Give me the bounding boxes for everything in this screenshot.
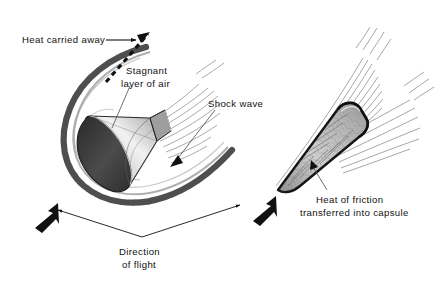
direction-of-flight-group: Direction of flight <box>35 196 277 270</box>
label-heat-friction-line2: transferred into capsule <box>300 207 409 218</box>
label-stagnant-layer-line1: Stagnant <box>126 65 167 76</box>
label-direction-line1: Direction <box>119 246 160 257</box>
diagram-canvas: Heat carried away Stagnant layer of air … <box>0 0 440 282</box>
label-stagnant-layer-line2: layer of air <box>121 78 170 89</box>
label-heat-friction-line1: Heat of friction <box>316 194 383 205</box>
flight-arrow-left <box>35 203 59 233</box>
reentry-diagram-svg: Heat carried away Stagnant layer of air … <box>0 0 440 282</box>
right-panel-group: Heat of friction transferred into capsul… <box>276 27 434 218</box>
flight-arrow-right <box>253 196 277 226</box>
label-heat-carried-away: Heat carried away <box>22 34 105 45</box>
left-panel-group: Heat carried away Stagnant layer of air … <box>22 32 263 203</box>
label-shock-wave: Shock wave <box>208 98 263 109</box>
label-direction-line2: of flight <box>122 259 156 270</box>
